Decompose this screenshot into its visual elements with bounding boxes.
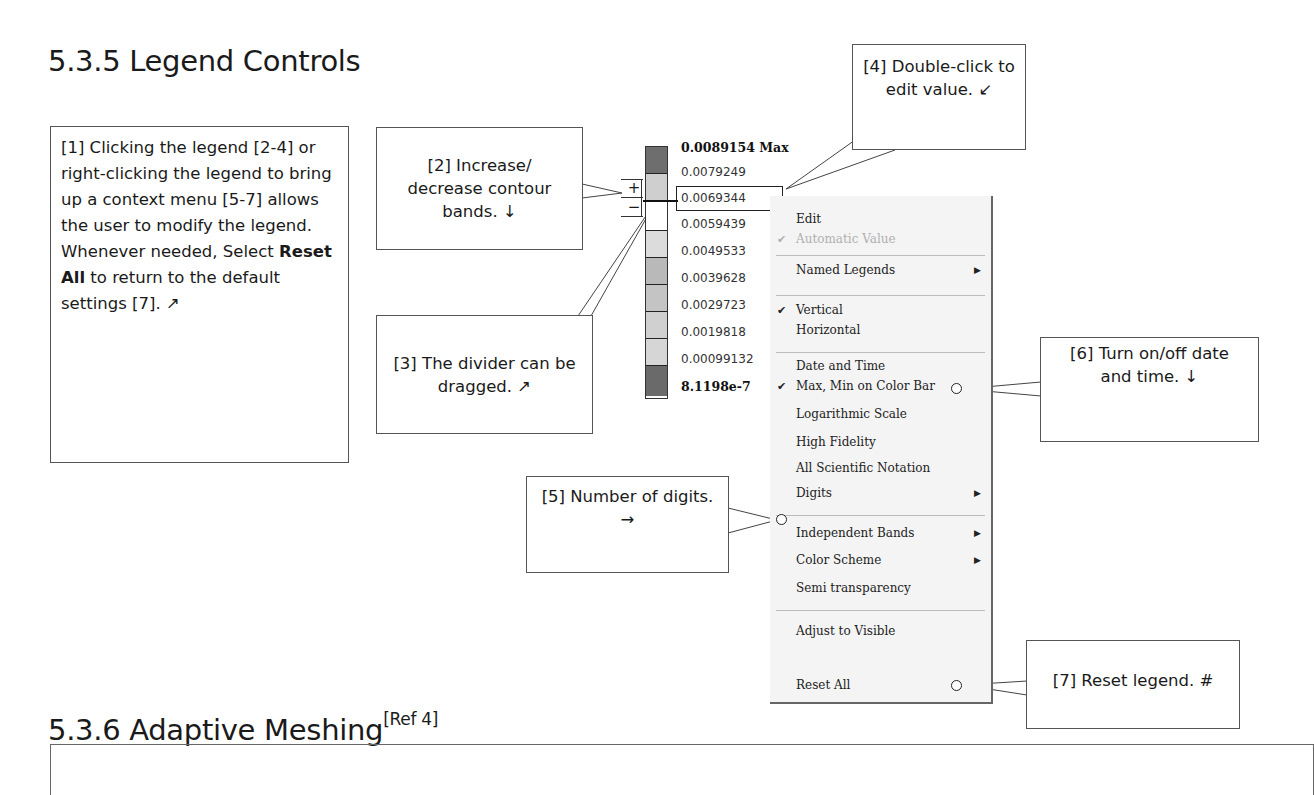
menu-item-logarithmic-scale[interactable]: Logarithmic Scale: [770, 405, 991, 424]
callout-2-text: [2] Increase/ decrease contour bands. ↓: [391, 154, 568, 223]
callout-3-text: [3] The divider can be dragged. ↗: [389, 352, 580, 398]
menu-item-label: Reset All: [796, 678, 850, 692]
color-band[interactable]: [646, 147, 667, 174]
menu-item-label: Edit: [796, 212, 821, 226]
digits-marker-icon: [776, 514, 787, 525]
callout-4-text: [4] Double-click to edit value. ↙: [863, 55, 1015, 101]
callout-6-text: [6] Turn on/off date and time. ↓: [1053, 342, 1246, 388]
callout-5-text: [5] Number of digits. →: [539, 485, 716, 531]
legend-value[interactable]: 0.0079249: [681, 165, 746, 179]
menu-item-label: Date and Time: [796, 359, 885, 373]
menu-item-edit[interactable]: Edit: [770, 210, 991, 229]
color-band[interactable]: [646, 231, 667, 258]
menu-item-label: Semi transparency: [796, 581, 911, 595]
color-band[interactable]: [646, 366, 667, 396]
menu-item-label: Logarithmic Scale: [796, 407, 907, 421]
legend-value[interactable]: 0.00099132: [681, 352, 754, 366]
menu-item-label: High Fidelity: [796, 435, 876, 449]
increase-bands-button[interactable]: +: [627, 179, 642, 197]
submenu-arrow-icon: ▶: [974, 524, 981, 543]
menu-item-label: Vertical: [796, 303, 843, 317]
draggable-divider-handle[interactable]: [643, 200, 673, 202]
callout-7-reset: [7] Reset legend. #: [1026, 640, 1240, 729]
submenu-arrow-icon: ▶: [974, 261, 981, 280]
legend-value[interactable]: 0.0049533: [681, 244, 746, 258]
menu-item-date-and-time[interactable]: Date and Time: [770, 357, 991, 376]
menu-item-label: Named Legends: [796, 263, 895, 277]
legend-value[interactable]: 0.0019818: [681, 325, 746, 339]
menu-item-label: Automatic Value: [796, 232, 896, 246]
menu-separator: [776, 295, 985, 296]
color-band[interactable]: [646, 312, 667, 339]
reset-all-marker-icon: [951, 680, 962, 691]
legend-max-value[interactable]: 0.0089154 Max: [681, 140, 789, 155]
menu-item-color-scheme[interactable]: Color Scheme▶: [770, 551, 991, 570]
callout-3-divider: [3] The divider can be dragged. ↗: [376, 315, 593, 434]
callout-5-digits: [5] Number of digits. →: [526, 476, 729, 573]
band-count-controls: + −: [621, 179, 643, 233]
menu-item-automatic-value[interactable]: ✔Automatic Value: [770, 230, 991, 249]
callout-7-text: [7] Reset legend. #: [1053, 669, 1214, 692]
menu-item-vertical[interactable]: ✔Vertical: [770, 301, 991, 320]
divider-connector: [672, 200, 678, 202]
legend-value[interactable]: 0.0029723: [681, 298, 746, 312]
menu-item-label: All Scientific Notation: [796, 461, 930, 475]
submenu-arrow-icon: ▶: [974, 551, 981, 570]
menu-item-all-scientific-notation[interactable]: All Scientific Notation: [770, 459, 991, 478]
decrease-bands-button[interactable]: −: [627, 198, 642, 216]
menu-separator: [776, 610, 985, 611]
callout-1-description: [1] Clicking the legend [2-4] or right-c…: [50, 126, 349, 463]
menu-item-label: Adjust to Visible: [796, 624, 895, 638]
adaptive-meshing-content-box: [50, 744, 1314, 795]
menu-item-digits[interactable]: Digits▶: [770, 484, 991, 503]
menu-item-horizontal[interactable]: Horizontal: [770, 321, 991, 340]
legend-value-editing: 0.0069344: [681, 191, 746, 205]
minus-bottom-rule: [621, 216, 643, 217]
menu-item-semi-transparency[interactable]: Semi transparency: [770, 579, 991, 598]
color-band[interactable]: [646, 258, 667, 285]
menu-item-label: Horizontal: [796, 323, 860, 337]
menu-item-label: Independent Bands: [796, 526, 914, 540]
legend-value-edit-field[interactable]: 0.0069344: [676, 186, 783, 211]
menu-separator: [776, 352, 985, 353]
callout-4-edit-value: [4] Double-click to edit value. ↙: [852, 44, 1026, 150]
callout-6-date-time: [6] Turn on/off date and time. ↓: [1040, 337, 1259, 442]
date-time-marker-icon: [951, 383, 962, 394]
callout-1-text-end: to return to the default settings [7]. ↗: [61, 268, 280, 313]
check-icon: ✔: [777, 301, 786, 320]
color-band[interactable]: [646, 339, 667, 366]
menu-item-high-fidelity[interactable]: High Fidelity: [770, 433, 991, 452]
menu-item-label: Digits: [796, 486, 832, 500]
legend-value[interactable]: 0.0039628: [681, 271, 746, 285]
legend-color-bar[interactable]: [645, 146, 668, 399]
menu-item-label: Color Scheme: [796, 553, 881, 567]
submenu-arrow-icon: ▶: [974, 484, 981, 503]
menu-item-label: Max, Min on Color Bar: [796, 379, 935, 393]
legend-context-menu: Edit ✔Automatic Value Named Legends▶ ✔Ve…: [770, 196, 993, 704]
legend-value[interactable]: 0.0059439: [681, 217, 746, 231]
check-icon: ✔: [777, 377, 786, 396]
menu-separator: [776, 515, 985, 516]
menu-item-named-legends[interactable]: Named Legends▶: [770, 261, 991, 280]
menu-item-independent-bands[interactable]: Independent Bands▶: [770, 524, 991, 543]
color-band[interactable]: [646, 285, 667, 312]
check-icon: ✔: [777, 230, 786, 249]
menu-separator: [776, 255, 985, 256]
menu-item-adjust-to-visible[interactable]: Adjust to Visible: [770, 622, 991, 641]
color-band[interactable]: [646, 174, 667, 201]
color-band[interactable]: [646, 201, 667, 231]
legend-min-value[interactable]: 8.1198e-7: [681, 379, 751, 394]
callout-2-bands: [2] Increase/ decrease contour bands. ↓: [376, 127, 583, 250]
